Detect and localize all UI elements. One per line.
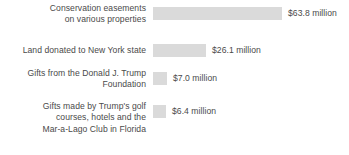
chart-row: Gifts made by Trump's golf courses, hote… bbox=[0, 105, 349, 135]
value-label: $26.1 million bbox=[206, 44, 261, 57]
chart-row: Conservation easements on various proper… bbox=[0, 7, 349, 26]
value-label: $63.8 million bbox=[282, 7, 337, 20]
bar-area: $26.1 million bbox=[146, 44, 349, 57]
bar-area: $63.8 million bbox=[146, 7, 349, 20]
category-label: Land donated to New York state bbox=[0, 45, 146, 56]
bar bbox=[153, 72, 167, 85]
bar-area: $7.0 million bbox=[146, 72, 349, 85]
value-label: $6.4 million bbox=[166, 105, 216, 118]
chart-row: Land donated to New York state $26.1 mil… bbox=[0, 44, 349, 57]
value-label: $7.0 million bbox=[167, 72, 217, 85]
category-label: Gifts made by Trump's golf courses, hote… bbox=[0, 101, 146, 135]
bar bbox=[153, 7, 282, 20]
bar bbox=[153, 44, 206, 57]
category-label: Conservation easements on various proper… bbox=[0, 3, 146, 26]
category-label: Gifts from the Donald J. Trump Foundatio… bbox=[0, 68, 146, 91]
bar-area: $6.4 million bbox=[146, 105, 349, 118]
bar-chart: Conservation easements on various proper… bbox=[0, 0, 349, 155]
chart-row: Gifts from the Donald J. Trump Foundatio… bbox=[0, 72, 349, 91]
bar bbox=[153, 105, 166, 118]
